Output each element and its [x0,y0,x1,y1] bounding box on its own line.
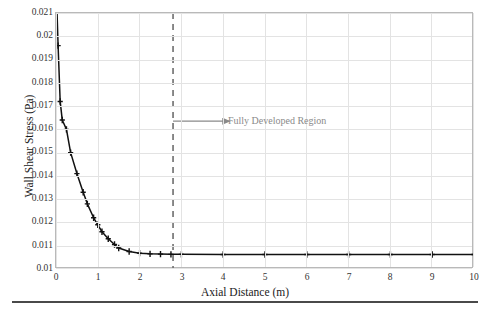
gridline-vertical [56,13,57,267]
x-tick-label: 8 [375,272,405,282]
gridline-horizontal [56,246,472,247]
plot-area [55,12,473,268]
gridline-horizontal [56,176,472,177]
x-tick-label: 2 [125,272,155,282]
bottom-divider [12,301,478,303]
gridline-vertical [431,13,432,267]
gridline-horizontal [56,153,472,154]
y-tick-label: 0.011 [32,240,53,250]
gridline-vertical [181,13,182,267]
gridline-vertical [306,13,307,267]
data-point-marker [58,98,63,104]
x-tick-label: 6 [292,272,322,282]
y-tick-label: 0.015 [32,146,53,156]
data-point-marker [127,248,132,254]
x-tick-label: 0 [41,272,71,282]
x-tick-label: 1 [83,272,113,282]
x-tick-label: 9 [417,272,447,282]
x-tick-label: 3 [167,272,197,282]
gridline-vertical [139,13,140,267]
gridline-horizontal [56,60,472,61]
data-point-marker [81,189,86,195]
y-tick-label: 0.014 [32,170,53,180]
gridline-horizontal [56,199,472,200]
y-tick-label: 0.012 [32,216,53,226]
x-tick-label: 10 [459,272,489,282]
gridline-vertical [265,13,266,267]
data-point-marker [147,251,152,257]
annotation-label: Fully Developed Region [228,115,326,126]
gridline-horizontal [56,36,472,37]
y-tick-label: 0.021 [32,7,53,17]
gridline-vertical [348,13,349,267]
y-tick-label: 0.013 [32,193,53,203]
gridline-vertical [473,13,474,267]
gridline-horizontal [56,222,472,223]
y-tick-label: 0.018 [32,77,53,87]
gridline-horizontal [56,129,472,130]
x-tick-label: 7 [334,272,364,282]
gridline-vertical [98,13,99,267]
y-tick-label: 0.019 [32,53,53,63]
x-tick-label: 4 [208,272,238,282]
gridline-vertical [390,13,391,267]
x-axis-title: Axial Distance (m) [0,286,490,298]
gridline-horizontal [56,13,472,14]
gridline-horizontal [56,106,472,107]
data-point-marker [158,251,163,257]
x-tick-label: 5 [250,272,280,282]
y-tick-label: 0.017 [32,100,53,110]
gridline-vertical [223,13,224,267]
wall-shear-stress-figure: Wall Shear Stress (Pa) 0.021 0.02 0.019 … [0,0,490,309]
y-tick-label: 0.016 [32,123,53,133]
gridline-horizontal [56,83,472,84]
y-tick-label: 0.02 [36,30,53,40]
gridline-horizontal [56,268,472,269]
